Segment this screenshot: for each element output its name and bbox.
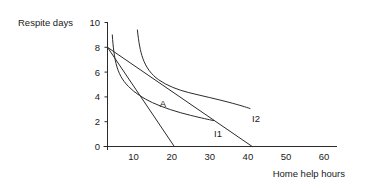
x-tick-label-10: 10 — [128, 151, 139, 162]
indifference-curve-chart: 0 2 4 6 8 10 10 20 30 40 50 60 Respite d… — [0, 0, 369, 189]
y-tick-label-6: 6 — [95, 67, 100, 78]
x-tick-label-30: 30 — [205, 151, 216, 162]
chart-container: 0 2 4 6 8 10 10 20 30 40 50 60 Respite d… — [0, 0, 369, 189]
curve-i2-label: I2 — [252, 113, 260, 124]
x-tick-label-20: 20 — [166, 151, 177, 162]
indifference-curve-i2 — [137, 30, 250, 109]
x-axis-title: Home help hours — [273, 168, 346, 179]
budget-line-flat — [108, 47, 253, 146]
y-axis-title: Respite days — [18, 17, 73, 28]
x-tick-label-40: 40 — [243, 151, 254, 162]
y-tick-label-2: 2 — [95, 116, 100, 127]
curve-i1-label: I1 — [214, 128, 222, 139]
point-a-label: A — [160, 98, 167, 109]
y-tick-label-10: 10 — [89, 17, 100, 28]
y-tick-label-8: 8 — [95, 42, 100, 53]
x-tick-label-50: 50 — [281, 151, 292, 162]
y-tick-label-0: 0 — [95, 141, 100, 152]
y-tick-label-4: 4 — [95, 91, 100, 102]
x-tick-label-60: 60 — [319, 151, 330, 162]
